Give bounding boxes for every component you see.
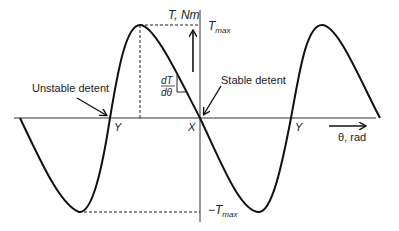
stable-detent-label: Stable detent	[221, 74, 286, 86]
y-axis-label: T, Nm	[168, 8, 200, 22]
stable-detent-pointer	[204, 86, 221, 114]
unstable-detent-label: Unstable detent	[32, 82, 109, 94]
x-axis-label: θ, rad	[338, 131, 366, 143]
tmax-label: Tmax	[208, 19, 231, 35]
point-x: X	[187, 121, 196, 133]
neg-tmax-label: −Tmax	[208, 203, 238, 219]
point-y-right: Y	[295, 121, 303, 133]
detent-torque-diagram: T, Nm Tmax −Tmax dT dθ Unstable detent S…	[0, 0, 399, 231]
point-y-left: Y	[114, 121, 122, 133]
slope-denominator: dθ	[161, 87, 173, 98]
unstable-detent-pointer	[77, 98, 106, 115]
slope-numerator: dT	[161, 75, 174, 86]
